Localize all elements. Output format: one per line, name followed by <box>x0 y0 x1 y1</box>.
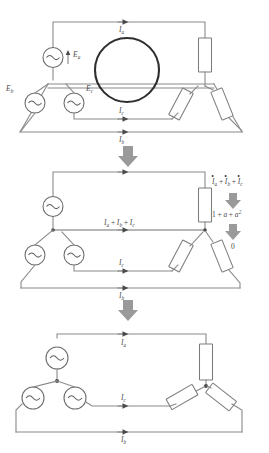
neutral-highlight-circle <box>95 38 159 102</box>
current-b-label: Ib <box>121 436 126 444</box>
result-zero-label: 0 <box>231 243 235 251</box>
source-c-symbol <box>64 93 84 113</box>
figure-canvas: Ea Eb Ec Ia Ic Ib Ia + Ib + Ic Ic Ib Ia … <box>0 0 269 453</box>
source-c-symbol <box>64 387 86 409</box>
current-c-label: Ic <box>119 107 124 115</box>
source-b-symbol <box>22 387 44 409</box>
current-a-label: Ia <box>119 26 124 34</box>
source-b-symbol <box>25 245 45 265</box>
source-c-label: Ec <box>86 85 93 93</box>
source-b-symbol <box>25 93 45 113</box>
current-b-label: Ib <box>119 292 124 300</box>
transition-arrow-2-shape <box>118 300 138 321</box>
source-c-symbol <box>64 245 84 265</box>
source-a-label: Ea <box>73 51 80 59</box>
current-a-label: Ia <box>121 339 126 347</box>
load-b-symbol <box>211 88 233 120</box>
load-c-symbol <box>169 88 194 120</box>
transition-arrow-1-shape <box>118 146 138 167</box>
current-c-label: Ic <box>121 394 126 402</box>
diagram-2-group <box>21 172 241 288</box>
source-a-symbol <box>43 48 63 68</box>
load-b-symbol <box>211 240 233 272</box>
source-a-symbol <box>46 347 68 369</box>
source-b-label: Eb <box>6 85 13 93</box>
operator-identity-label: 1 + a + a2 <box>212 211 241 219</box>
load-c-symbol <box>169 240 194 272</box>
neutral-sum-label: Ia + Ib + Ic <box>104 219 135 227</box>
diagram-3-group <box>16 334 242 432</box>
diagram-1-group <box>20 22 242 132</box>
phasor-sum-label: Ia + Ib + Ic <box>212 178 243 186</box>
source-a-symbol <box>43 197 63 217</box>
current-b-label: Ib <box>119 136 124 144</box>
current-c-label: Ic <box>119 259 124 267</box>
